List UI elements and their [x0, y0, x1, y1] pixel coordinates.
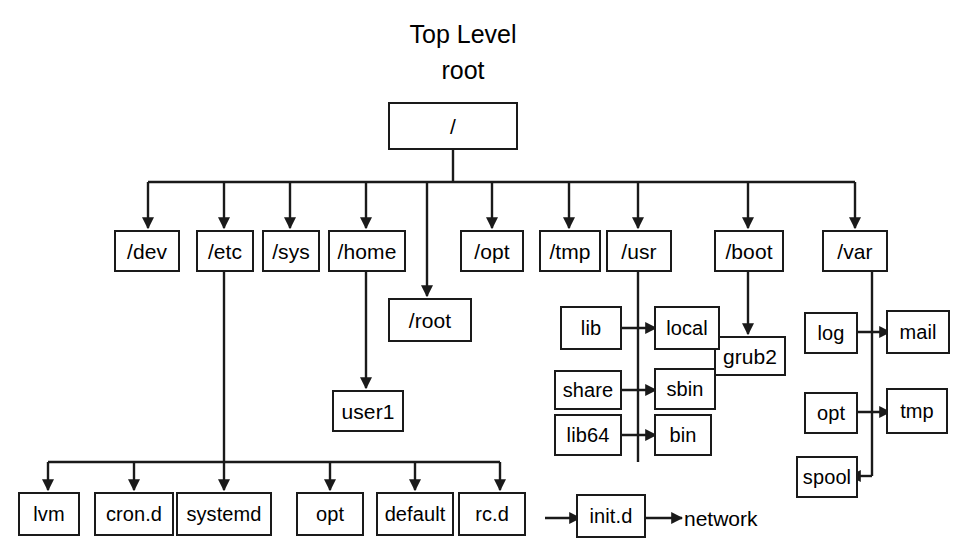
node-usr-bin[interactable]: bin [654, 414, 712, 456]
node-var-opt[interactable]: opt [804, 392, 858, 434]
node-usr-lib64[interactable]: lib64 [554, 414, 622, 456]
node-usr-local[interactable]: local [654, 306, 720, 350]
node-var[interactable]: /var [822, 230, 888, 272]
node-etc-opt[interactable]: opt [296, 492, 364, 536]
node-opt[interactable]: /opt [460, 230, 524, 272]
node-dev[interactable]: /dev [114, 230, 180, 272]
node-network-label: network [684, 508, 758, 529]
node-grub2[interactable]: grub2 [714, 336, 786, 376]
node-var-mail[interactable]: mail [886, 310, 950, 354]
node-usr[interactable]: /usr [606, 230, 672, 272]
node-usr-share[interactable]: share [554, 370, 622, 410]
diagram-title-line2: root [383, 58, 543, 83]
node-var-log[interactable]: log [804, 312, 858, 354]
node-var-spool[interactable]: spool [796, 456, 858, 498]
node-etc[interactable]: /etc [196, 230, 254, 272]
node-etc-rc-d[interactable]: rc.d [458, 492, 526, 536]
diagram-title-line1: Top Level [383, 22, 543, 47]
node-var-tmp[interactable]: tmp [886, 388, 948, 434]
node-usr-lib[interactable]: lib [560, 306, 622, 350]
node-tmp[interactable]: /tmp [539, 230, 601, 272]
node-init-d[interactable]: init.d [576, 494, 646, 538]
node-etc-cron-d[interactable]: cron.d [94, 492, 174, 536]
node-etc-default[interactable]: default [376, 492, 454, 536]
node-usr-sbin[interactable]: sbin [654, 368, 716, 410]
filesystem-hierarchy-diagram: Top Level root / /dev /etc /sys /home /o… [0, 0, 965, 557]
node-root-home[interactable]: /root [388, 298, 472, 342]
node-sys[interactable]: /sys [262, 230, 320, 272]
node-boot[interactable]: /boot [714, 230, 784, 272]
node-home[interactable]: /home [328, 230, 406, 272]
node-user1[interactable]: user1 [332, 390, 404, 432]
node-etc-lvm[interactable]: lvm [18, 492, 80, 536]
node-etc-systemd[interactable]: systemd [176, 492, 272, 536]
node-root[interactable]: / [388, 102, 518, 150]
